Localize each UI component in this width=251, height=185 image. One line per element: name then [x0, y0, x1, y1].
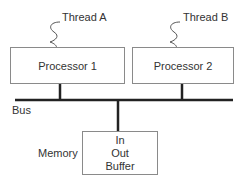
memory-box: In Out Buffer	[82, 131, 158, 175]
thread-a-label: Thread A	[62, 11, 107, 24]
thread-b-label: Thread B	[183, 11, 228, 24]
diagram: Thread A Thread B Processor 1 Processor …	[0, 0, 251, 185]
processor-1-label: Processor 1	[11, 60, 124, 73]
memory-label: Memory	[38, 147, 78, 160]
memory-in: In	[83, 134, 157, 147]
processor-1-box: Processor 1	[10, 47, 125, 84]
bus-label: Bus	[12, 104, 31, 117]
processor-2-box: Processor 2	[132, 47, 234, 84]
memory-out: Out	[83, 147, 157, 160]
processor-2-label: Processor 2	[133, 60, 233, 73]
memory-buffer: Buffer	[83, 160, 157, 173]
